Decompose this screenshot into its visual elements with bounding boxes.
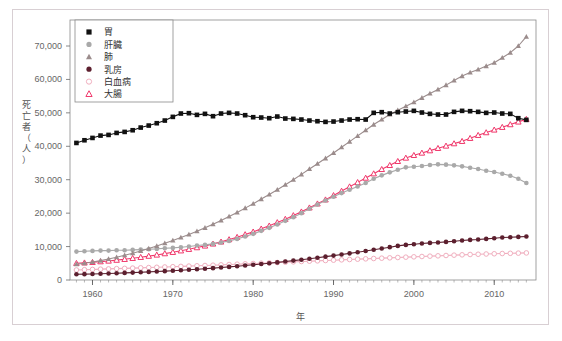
data-marker [98,267,103,272]
legend-label: 白血病 [104,76,131,87]
data-marker [74,249,79,254]
data-marker [130,255,136,260]
data-marker [379,173,384,178]
data-marker [428,112,433,117]
data-marker [524,181,529,186]
data-marker [235,237,240,242]
data-marker [291,258,296,263]
data-marker [315,119,320,124]
data-marker [86,79,91,84]
data-marker [171,268,176,273]
data-marker [267,226,272,231]
data-marker [163,246,168,251]
data-marker [154,265,159,270]
data-marker [435,87,440,92]
legend-label: 乳房 [104,64,122,75]
data-marker [234,210,239,215]
data-marker [114,266,119,271]
data-marker [491,127,497,132]
data-marker [203,266,208,271]
data-marker [419,150,425,155]
data-marker [106,133,111,138]
data-marker [452,163,457,168]
data-marker [396,110,401,115]
data-marker [371,122,376,127]
data-marker [452,239,457,244]
data-marker [436,162,441,167]
data-marker [291,177,296,182]
data-marker [299,172,304,177]
data-marker [404,109,409,114]
data-marker [171,264,176,269]
data-marker [396,244,401,249]
data-marker [251,262,256,267]
legend-label: 胃 [104,27,113,37]
y-tick-label: 50,000 [34,108,62,118]
data-marker [363,117,368,122]
data-marker [195,243,200,248]
data-marker [307,256,312,261]
data-marker [90,267,95,272]
data-marker [436,254,441,259]
data-marker [154,269,159,274]
data-marker [524,234,529,239]
data-marker [219,111,224,116]
data-marker [267,192,272,197]
data-marker [443,82,448,87]
data-marker [411,152,417,157]
data-marker [162,251,168,256]
data-marker [475,132,481,137]
data-marker [459,138,465,143]
data-marker [323,254,328,259]
data-marker [516,176,521,181]
data-marker [420,254,425,259]
x-tick-label: 2010 [484,289,504,299]
data-marker [179,268,184,273]
data-marker [283,259,288,264]
y-axis-title-char: （ [19,133,33,144]
data-marker [235,111,240,116]
data-marker [211,242,216,247]
data-marker [86,42,91,47]
data-marker [243,263,248,268]
data-marker [363,127,368,132]
data-marker [468,165,473,170]
data-marker [499,124,505,129]
data-marker [98,271,103,276]
data-marker [347,257,352,262]
data-marker [227,265,232,270]
legend-label: 肺 [104,52,113,62]
data-marker [339,191,344,196]
x-tick-label: 1990 [324,289,344,299]
data-marker [138,266,143,271]
y-axis-title-char: ） [19,155,33,166]
data-marker [211,114,216,119]
data-marker [395,158,401,163]
data-marker [355,184,360,189]
data-marker [323,198,328,203]
data-marker [436,112,441,117]
data-marker [90,249,95,254]
data-marker [187,244,192,249]
data-marker [307,206,312,211]
data-marker [396,167,401,172]
data-marker [379,166,385,171]
data-marker [179,111,184,116]
data-marker [74,268,79,273]
y-tick-label: 0 [57,275,62,285]
data-marker [379,117,384,122]
data-marker [484,237,489,242]
data-marker [467,135,473,140]
data-marker [82,272,87,277]
series-line [76,119,526,263]
data-marker [307,118,312,123]
data-marker [436,240,441,245]
data-marker [387,170,392,175]
data-marker [315,255,320,260]
x-tick-label: 2000 [404,289,424,299]
data-marker [492,60,497,65]
data-marker [138,254,144,259]
data-marker [484,168,489,173]
x-tick-label: 1980 [243,289,263,299]
data-marker [452,253,457,258]
